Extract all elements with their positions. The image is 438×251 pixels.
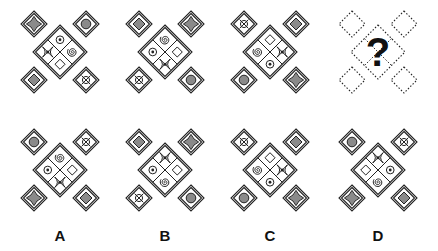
corner-tr-crossed-circle-target-icon [73, 129, 99, 155]
corner-tr-filled-circle-icon [73, 11, 99, 37]
corner-tl-crossed-circle-target-icon [231, 11, 257, 37]
center-diamond [243, 143, 297, 197]
center-diamond [33, 143, 87, 197]
corner-tr-filled-diamond-icon [283, 11, 309, 37]
corner-br-filled-diamond-icon [391, 185, 417, 211]
option-d[interactable] [323, 118, 433, 228]
corner-tr-four-point-star-icon [178, 129, 204, 155]
center-diamond [351, 143, 405, 197]
option-a[interactable] [5, 118, 115, 228]
corner-tl-filled-circle-icon [339, 129, 365, 155]
sequence-panel-2 [110, 0, 220, 110]
center-diamond: ? [351, 25, 405, 79]
question-mark: ? [366, 30, 390, 74]
corner-bl-four-point-star-icon [21, 185, 47, 211]
corner-br-filled-circle-icon [178, 67, 204, 93]
corner-br-four-point-star-icon [283, 67, 309, 93]
option-label-c: C [215, 227, 325, 244]
center-diamond [33, 25, 87, 79]
corner-tr-crossed-circle-target-icon [391, 129, 417, 155]
center-diamond [138, 25, 192, 79]
corner-bl-crossed-circle-target-icon [126, 67, 152, 93]
option-c[interactable] [215, 118, 325, 228]
corner-tr-filled-diamond-icon [283, 129, 309, 155]
corner-tl-filled-diamond-icon [126, 129, 152, 155]
sequence-panel-1 [5, 0, 115, 110]
option-label-d: D [323, 227, 433, 244]
corner-bl [339, 67, 365, 93]
sequence-panel-3 [215, 0, 325, 110]
corner-bl-filled-circle-icon [231, 67, 257, 93]
corner-br-filled-diamond-icon [73, 185, 99, 211]
corner-bl-crossed-circle-target-icon [126, 185, 152, 211]
corner-bl-filled-circle-icon [231, 185, 257, 211]
option-label-b: B [110, 227, 220, 244]
option-label-a: A [5, 227, 115, 244]
corner-tl-filled-diamond-icon [126, 11, 152, 37]
corner-tr [391, 11, 417, 37]
corner-bl-four-point-star-icon [339, 185, 365, 211]
corner-br [391, 67, 417, 93]
corner-tl-filled-circle-icon [21, 129, 47, 155]
center-diamond [243, 25, 297, 79]
corner-tl-four-point-star-icon [21, 11, 47, 37]
option-b[interactable] [110, 118, 220, 228]
corner-bl-filled-diamond-icon [21, 67, 47, 93]
corner-tl-crossed-circle-target-icon [231, 129, 257, 155]
center-diamond [138, 143, 192, 197]
corner-br-four-point-star-icon [283, 185, 309, 211]
sequence-panel-4: ? [323, 0, 433, 110]
corner-br-crossed-circle-target-icon [73, 67, 99, 93]
corner-tl [339, 11, 365, 37]
corner-tr-four-point-star-icon [178, 11, 204, 37]
corner-br-filled-circle-icon [178, 185, 204, 211]
